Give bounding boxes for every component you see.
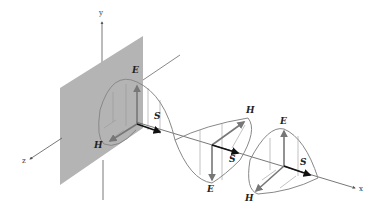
- y-axis-label: y: [99, 10, 103, 17]
- x-axis: [136, 122, 355, 188]
- x-axis-label: x: [359, 186, 363, 193]
- h-field-label-3: H: [245, 194, 254, 203]
- h-field-label-2: H: [246, 106, 255, 115]
- e-field-label-1: E: [132, 66, 139, 75]
- s-vector-label-2: S: [229, 155, 236, 164]
- wavefront-plane: [60, 36, 143, 185]
- h-field-label-1: H: [94, 141, 103, 150]
- z-axis: [30, 138, 62, 159]
- em-wave-diagram: [0, 0, 381, 212]
- s-vector-label-3: S: [300, 158, 307, 167]
- e-field-label-3: E: [280, 117, 287, 126]
- s-vector-label-1: S: [154, 112, 161, 121]
- z-axis-label: z: [22, 158, 26, 165]
- e-field-label-2: E: [207, 185, 214, 194]
